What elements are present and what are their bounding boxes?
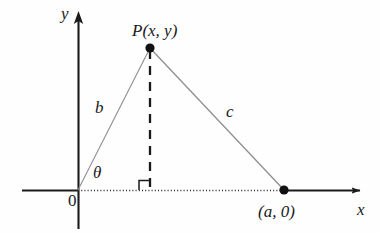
segment-b-line	[78, 48, 150, 190]
diagram-canvas	[0, 0, 380, 234]
point-p-marker	[145, 43, 154, 52]
angle-theta-label: θ	[93, 164, 101, 181]
right-angle-marker-icon	[139, 181, 149, 191]
point-p-label: P(x, y)	[132, 22, 177, 39]
segment-c-label: c	[226, 103, 234, 120]
point-a-marker	[279, 185, 288, 194]
geometry-diagram: y x 0 θ b c P(x, y) (a, 0)	[0, 0, 380, 234]
origin-label: 0	[68, 192, 77, 209]
segment-c-line	[150, 48, 284, 190]
segment-b-label: b	[95, 99, 104, 116]
point-a-label: (a, 0)	[258, 203, 295, 220]
x-axis-label: x	[357, 201, 365, 218]
y-axis-label: y	[61, 5, 69, 22]
